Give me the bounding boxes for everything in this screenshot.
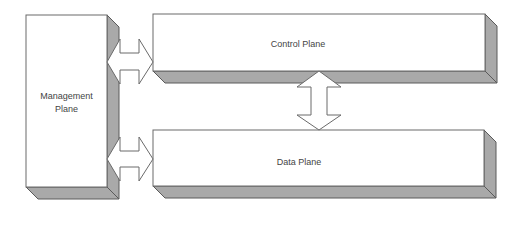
data-plane-bottom-side [153,186,496,198]
management-plane-bottom-side [26,187,119,199]
management-plane-label: Management Plane [26,90,107,116]
control-plane-label: Control Plane [253,38,343,51]
data-plane-label: Data Plane [254,156,344,169]
management-plane-label-line-1: Management [26,90,107,103]
management-plane-label-line-2: Plane [26,103,107,116]
